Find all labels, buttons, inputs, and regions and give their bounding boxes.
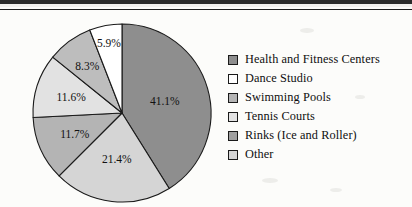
pie-svg: 41.1%21.4%11.7%11.6%8.3%5.9% xyxy=(22,10,222,207)
pie-slice-label: 11.6% xyxy=(57,91,87,103)
pie-slice-label: 41.1% xyxy=(150,95,180,107)
legend-label: Rinks (Ice and Roller) xyxy=(245,128,357,143)
legend-item[interactable]: Other xyxy=(228,145,408,164)
legend-item[interactable]: Health and Fitness Centers xyxy=(228,50,408,69)
legend-swatch xyxy=(228,150,238,160)
legend-item[interactable]: Tennis Courts xyxy=(228,107,408,126)
legend-swatch xyxy=(228,93,238,103)
pie-slice-label: 11.7% xyxy=(60,128,90,140)
pie-slice-label: 8.3% xyxy=(75,60,99,72)
pie-slice-label: 21.4% xyxy=(102,153,132,165)
legend-label: Tennis Courts xyxy=(245,109,315,124)
legend-item[interactable]: Swimming Pools xyxy=(228,88,408,107)
pie-chart: 41.1%21.4%11.7%11.6%8.3%5.9% xyxy=(22,10,222,207)
legend-label: Dance Studio xyxy=(245,71,313,86)
plot-area: 41.1%21.4%11.7%11.6%8.3%5.9% Health and … xyxy=(0,10,412,207)
legend-item[interactable]: Dance Studio xyxy=(228,69,408,88)
legend-swatch xyxy=(228,74,238,84)
scan-artifact-band-soft xyxy=(0,4,412,7)
legend-swatch xyxy=(228,112,238,122)
legend-label: Health and Fitness Centers xyxy=(245,52,380,67)
pie-slice-label: 5.9% xyxy=(97,37,121,49)
legend-label: Other xyxy=(245,147,274,162)
legend-swatch xyxy=(228,55,238,65)
legend-swatch xyxy=(228,131,238,141)
legend-item[interactable]: Rinks (Ice and Roller) xyxy=(228,126,408,145)
legend-label: Swimming Pools xyxy=(245,90,331,105)
chart-page: 41.1%21.4%11.7%11.6%8.3%5.9% Health and … xyxy=(0,0,412,207)
legend: Health and Fitness CentersDance StudioSw… xyxy=(228,50,408,164)
pie-slices-group xyxy=(33,24,211,202)
